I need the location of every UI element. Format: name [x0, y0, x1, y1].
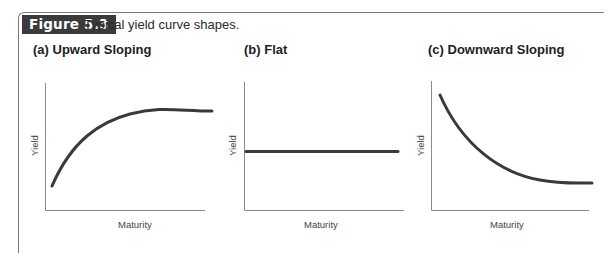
panel-b-x-label: Maturity	[304, 219, 338, 230]
panel-b-y-label: Yield	[227, 135, 238, 156]
panel-a-x-label: Maturity	[118, 219, 152, 230]
panel-c-x-label: Maturity	[490, 219, 524, 230]
panel-a-chart	[46, 83, 213, 211]
panel-b-chart	[245, 82, 405, 211]
panel-a-y-label: Yield	[29, 135, 40, 156]
panel-c-chart	[432, 81, 593, 211]
panel-c-y-label: Yield	[415, 135, 426, 156]
panel-c-downward-curve	[440, 95, 592, 183]
panel-a-upward-curve	[52, 109, 212, 186]
